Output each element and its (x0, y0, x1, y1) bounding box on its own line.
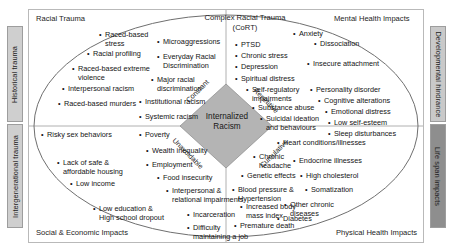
side-bar-developmental-hindrance-label: Developmental hindrance (434, 31, 443, 117)
list-item: Chronic stress (241, 52, 288, 61)
list-item: PTSD (241, 41, 260, 50)
list-item: Self-regulatory impairments (252, 86, 299, 103)
list-item: Systemic racism (145, 113, 198, 122)
side-bar-historical-trauma-label: Historical trauma (11, 45, 20, 102)
list-item: Racial profiling (93, 50, 141, 59)
list-item: Institutional racism (145, 98, 205, 107)
list-item: Wealth inequality (152, 147, 207, 156)
list-item: Everyday Racial Discrimination (163, 53, 216, 70)
list-item: Chronic headache (259, 153, 291, 170)
list-item: Low self-esteem (334, 119, 387, 128)
list-item: Risky sex behaviors (47, 131, 112, 140)
list-item: Low education & High school dropout (99, 205, 164, 222)
list-item: Anxiety (299, 30, 323, 39)
list-item: Heart conditions/illnesses (283, 139, 366, 148)
list-item: Raced-based stress (105, 31, 148, 48)
side-bar-life-span-impacts-label: Life span impacts (434, 146, 443, 205)
list-item: Employment (152, 161, 193, 170)
list-item: Raced-based murders (64, 100, 136, 109)
side-bar-intergenerational-trauma-label: Intergenerational trauma (11, 135, 20, 218)
list-item: Suicidal ideation and behaviours (266, 115, 319, 132)
list-item: Spiritual distress (241, 75, 295, 84)
list-item: Major racial discrimination (157, 76, 202, 93)
quadrant-title-racial-trauma: Racial Trauma (36, 14, 85, 23)
list-item: Poverty (145, 131, 170, 140)
quadrant-title-social-economic-impacts: Social & Economic Impacts (36, 228, 128, 237)
list-item: Raced-based extreme violence (78, 65, 150, 82)
list-item: Incarceration (193, 211, 235, 220)
list-item: Microaggressions (163, 38, 220, 47)
list-item: Personality disorder (316, 86, 381, 95)
list-item: Substance abuse (258, 104, 314, 113)
diagram-main-title: Complex Racial Trauma (CoRT) (190, 13, 300, 33)
cort-diagram: Historical trauma Intergenerational trau… (0, 0, 454, 252)
list-item: Interpersonal racism (68, 85, 134, 94)
side-bar-historical-trauma: Historical trauma (7, 26, 23, 122)
list-item: Cognitive alterations (324, 97, 390, 106)
side-bar-developmental-hindrance: Developmental hindrance (430, 26, 446, 122)
list-item: Low income (76, 180, 115, 189)
list-item: Lack of safe & affordable housing (63, 159, 123, 176)
list-item: Dissociation (320, 40, 359, 49)
quadrant-title-physical-health-impacts: Physical Health Impacts (336, 228, 417, 237)
list-item: Insecure attachment (313, 60, 379, 69)
list-item: Somatization (311, 186, 353, 195)
list-item: Food insecurity (163, 174, 212, 183)
list-item: Endocrine illnesses (299, 157, 362, 166)
list-item: Depression (241, 63, 278, 72)
list-item: High cholesterol (306, 172, 358, 181)
list-item: Emotional distress (331, 108, 391, 117)
side-bar-life-span-impacts: Life span impacts (430, 124, 446, 228)
list-item: Genetic effects (247, 172, 296, 181)
list-item: Premature death (240, 222, 294, 231)
side-bar-intergenerational-trauma: Intergenerational trauma (7, 124, 23, 228)
quadrant-title-mental-health-impacts: Mental Health Impacts (334, 14, 410, 23)
